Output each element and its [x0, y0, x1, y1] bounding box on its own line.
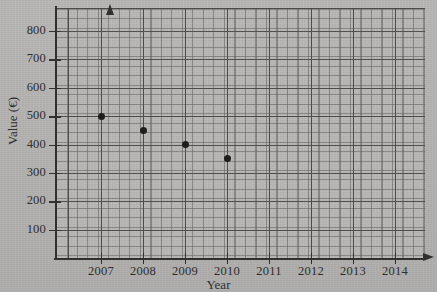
scatter-chart-figure: 800 700 600 500 400 300 200 100 2007 200…	[0, 0, 437, 292]
y-tick-700	[49, 59, 61, 60]
plot-area	[56, 8, 425, 258]
x-tick-2010	[227, 253, 228, 264]
x-tick-2012	[311, 253, 312, 264]
x-tick-2007	[101, 253, 102, 264]
data-point-2008	[140, 127, 147, 134]
x-tick-2009	[185, 253, 186, 264]
x-axis-arrowhead	[423, 253, 434, 261]
x-axis-title: Year	[0, 277, 437, 292]
x-tick-2011	[269, 253, 270, 264]
data-point-2010	[224, 155, 231, 162]
y-axis-arrowhead	[106, 4, 114, 15]
y-tick-400	[49, 145, 61, 146]
y-tick-500	[49, 116, 61, 117]
x-axis-line	[54, 258, 424, 260]
y-tick-200	[49, 201, 61, 202]
x-tick-2008	[143, 253, 144, 264]
y-tick-label-200: 200	[6, 193, 46, 208]
data-point-2009	[182, 141, 189, 148]
x-tick-2014	[395, 253, 396, 264]
major-gridlines	[56, 8, 425, 258]
data-point-2007	[98, 113, 105, 120]
y-axis-line	[55, 6, 57, 259]
y-tick-label-800: 800	[6, 23, 46, 38]
y-tick-300	[49, 173, 61, 174]
y-axis-title: Value (€)	[5, 71, 21, 171]
x-tick-2013	[353, 253, 354, 264]
y-tick-label-700: 700	[6, 51, 46, 66]
y-tick-label-100: 100	[6, 222, 46, 237]
y-tick-600	[49, 88, 61, 89]
y-tick-100	[49, 230, 61, 231]
y-tick-800	[49, 31, 61, 32]
